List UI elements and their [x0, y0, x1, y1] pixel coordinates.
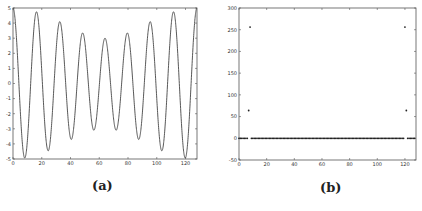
- chart-a-xtick-label: 100: [152, 160, 162, 166]
- chart-a-ytick-label: 3: [8, 35, 11, 41]
- chart-a-ytick-label: 4: [8, 20, 11, 26]
- chart-a-xtick-label: 40: [67, 160, 73, 166]
- chart-b-peak-point: [404, 26, 406, 28]
- chart-b-ytick-label: 250: [227, 27, 237, 33]
- caption-b: (b): [320, 180, 341, 195]
- chart-a-xtick-label: 0: [11, 160, 14, 166]
- chart-b-ytick-label: 300: [227, 5, 237, 11]
- chart-a-ytick-label: 0: [8, 80, 11, 86]
- chart-b: 020406080100120-50050100150200250300: [212, 0, 422, 170]
- chart-b-peak-point: [405, 110, 407, 112]
- chart-a-ytick-label: -4: [6, 141, 11, 147]
- chart-b-xtick-label: 20: [263, 161, 269, 167]
- chart-a-plot: 020406080100120-5-4-3-2-1012345: [0, 0, 205, 170]
- chart-b-ytick-label: 150: [227, 70, 237, 76]
- chart-b-xtick-label: 60: [319, 161, 325, 167]
- chart-b-xtick-label: 80: [346, 161, 352, 167]
- chart-b-xtick-label: 0: [237, 161, 240, 167]
- chart-b-xtick-label: 40: [291, 161, 297, 167]
- chart-a-xtick-label: 120: [181, 160, 191, 166]
- chart-b-peak-point: [249, 26, 251, 28]
- chart-a-ytick-label: -5: [6, 156, 11, 162]
- chart-b-ytick-label: 100: [227, 92, 237, 98]
- caption-a: (a): [92, 178, 113, 193]
- chart-a-axes-frame: [13, 8, 197, 159]
- chart-a-ytick-label: 2: [8, 50, 11, 56]
- chart-a-ytick-label: -2: [6, 111, 11, 117]
- chart-b-ytick-label: 50: [231, 113, 237, 119]
- chart-b-ytick-label: 0: [234, 135, 237, 141]
- chart-b-xtick-label: 100: [373, 161, 383, 167]
- chart-a-ytick-label: 5: [8, 5, 11, 11]
- chart-b-ytick-label: -50: [229, 157, 237, 163]
- chart-a-xtick-label: 20: [39, 160, 45, 166]
- chart-a-xtick-label: 80: [125, 160, 131, 166]
- chart-b-peak-point: [248, 110, 250, 112]
- chart-a: 020406080100120-5-4-3-2-1012345: [0, 0, 205, 170]
- chart-b-xtick-label: 120: [400, 161, 410, 167]
- chart-b-plot: 020406080100120-50050100150200250300: [212, 0, 422, 170]
- chart-b-axes-frame: [239, 8, 416, 160]
- chart-a-ytick-label: -3: [6, 126, 11, 132]
- chart-b-ytick-label: 200: [227, 48, 237, 54]
- chart-a-xtick-label: 60: [96, 160, 102, 166]
- chart-a-ytick-label: 1: [8, 65, 11, 71]
- chart-a-ytick-label: -1: [6, 95, 11, 101]
- chart-a-line: [13, 8, 197, 158]
- chart-b-baseline-points: [238, 137, 415, 139]
